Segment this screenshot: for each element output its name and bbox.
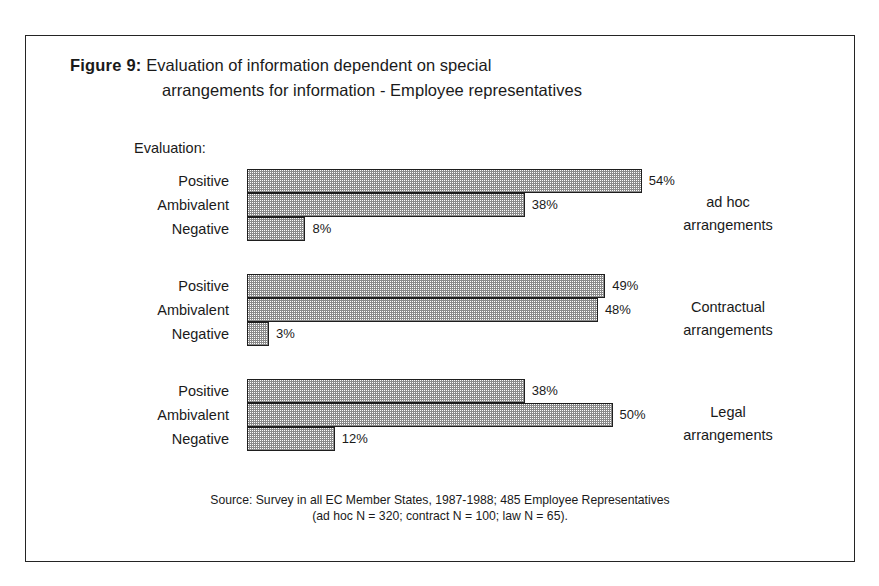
bar-group: Positive49%Ambivalent48%Negative3%Contra… [26, 274, 856, 346]
bar-and-value: 49% [247, 274, 638, 298]
bar-category-label: Positive [26, 169, 239, 193]
bar-and-value: 12% [247, 427, 368, 451]
bar-rect [247, 169, 642, 193]
bar-category-label: Negative [26, 427, 239, 451]
figure-title-line-2: arrangements for information - Employee … [70, 78, 830, 103]
bar-rect [247, 274, 605, 298]
bar-and-value: 50% [247, 403, 646, 427]
bar-value-label: 54% [649, 169, 675, 193]
bar-and-value: 8% [247, 217, 331, 241]
bar-row: Positive49% [26, 274, 856, 298]
bar-category-label: Negative [26, 217, 239, 241]
bar-rect [247, 379, 525, 403]
bar-value-label: 8% [312, 217, 331, 241]
bar-and-value: 38% [247, 379, 558, 403]
figure-title-line-1: Figure 9: Evaluation of information depe… [70, 53, 830, 78]
bar-group-label: Contractualarrangements [613, 296, 843, 342]
bar-group-label-line-1: ad hoc [613, 191, 843, 214]
bar-category-label: Ambivalent [26, 193, 239, 217]
bar-rect [247, 427, 335, 451]
bar-category-label: Ambivalent [26, 403, 239, 427]
bar-group-label-line-2: arrangements [613, 214, 843, 237]
bar-value-label: 3% [276, 322, 295, 346]
chart-plot-area: Positive54%Ambivalent38%Negative8%ad hoc… [26, 169, 856, 451]
bar-and-value: 54% [247, 169, 675, 193]
bar-group-label: ad hocarrangements [613, 191, 843, 237]
source-note-line-1: Source: Survey in all EC Member States, … [26, 492, 854, 508]
figure-number-label: Figure 9: [70, 56, 141, 74]
bar-value-label: 38% [532, 193, 558, 217]
bar-group-label: Legalarrangements [613, 401, 843, 447]
bar-category-label: Negative [26, 322, 239, 346]
bar-and-value: 38% [247, 193, 558, 217]
bar-rect [247, 298, 598, 322]
figure-frame: Figure 9: Evaluation of information depe… [25, 35, 855, 562]
source-note: Source: Survey in all EC Member States, … [26, 492, 854, 524]
bar-row: Positive38% [26, 379, 856, 403]
evaluation-caption: Evaluation: [134, 140, 206, 156]
bar-rect [247, 193, 525, 217]
source-note-line-2: (ad hoc N = 320; contract N = 100; law N… [26, 508, 854, 524]
bar-group: Positive38%Ambivalent50%Negative12%Legal… [26, 379, 856, 451]
bar-category-label: Positive [26, 274, 239, 298]
bar-row: Positive54% [26, 169, 856, 193]
bar-group-label-line-2: arrangements [613, 424, 843, 447]
bar-category-label: Positive [26, 379, 239, 403]
bar-rect [247, 217, 305, 241]
bar-and-value: 48% [247, 298, 631, 322]
bar-group-label-line-1: Contractual [613, 296, 843, 319]
bar-rect [247, 403, 613, 427]
bar-and-value: 3% [247, 322, 295, 346]
bar-rect [247, 322, 269, 346]
figure-title-text-1: Evaluation of information dependent on s… [146, 56, 491, 74]
bar-group: Positive54%Ambivalent38%Negative8%ad hoc… [26, 169, 856, 241]
bar-group-label-line-1: Legal [613, 401, 843, 424]
bar-category-label: Ambivalent [26, 298, 239, 322]
bar-value-label: 49% [612, 274, 638, 298]
bar-value-label: 12% [342, 427, 368, 451]
bar-value-label: 38% [532, 379, 558, 403]
figure-title: Figure 9: Evaluation of information depe… [70, 53, 830, 103]
bar-group-label-line-2: arrangements [613, 319, 843, 342]
